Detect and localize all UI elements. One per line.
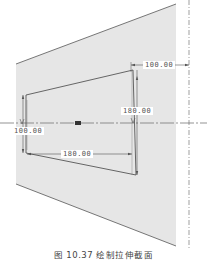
top-dim-arrow-right — [185, 64, 189, 66]
dim-label-left-height[interactable]: 100.00 — [12, 127, 44, 135]
sketch-plane — [16, 4, 176, 246]
center-marker — [75, 121, 81, 125]
figure-caption: 图 10.37 绘制拉伸截面 — [0, 248, 207, 260]
dim-label-right-height[interactable]: 180.00 — [121, 107, 153, 115]
dim-label-top-offset[interactable]: 100.00 — [143, 61, 175, 69]
dim-label-bottom-width[interactable]: 180.00 — [61, 150, 93, 158]
